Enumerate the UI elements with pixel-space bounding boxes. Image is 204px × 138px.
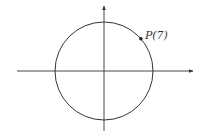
point-label: P(7)	[144, 29, 168, 42]
point-p	[139, 37, 143, 41]
unit-circle-diagram: P(7)	[0, 0, 204, 138]
